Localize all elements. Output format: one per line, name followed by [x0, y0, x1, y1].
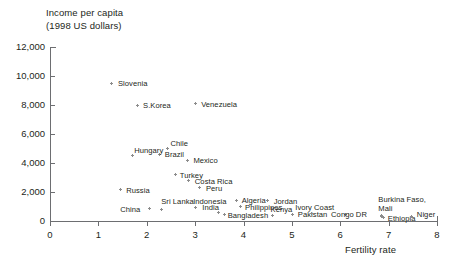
x-tick-label: 1: [88, 229, 108, 240]
data-point-marker: [174, 173, 177, 176]
x-tick-label: 5: [282, 229, 302, 240]
data-point-marker: [160, 208, 163, 211]
data-point-marker: [186, 159, 189, 162]
data-point-label: India: [202, 203, 219, 212]
y-axis-title-line1: Income per capita: [46, 7, 123, 18]
y-tick-mark: [51, 192, 55, 193]
data-point-marker: [148, 207, 151, 210]
data-point-marker: [235, 199, 238, 202]
x-tick-mark: [147, 222, 148, 226]
data-point-label: Niger: [417, 210, 435, 219]
y-tick-mark: [51, 47, 55, 48]
data-point-label: Venezuela: [201, 100, 237, 109]
scatter-chart: Income per capita (1998 US dollars) Fert…: [0, 0, 463, 270]
x-tick-label: 0: [40, 229, 60, 240]
x-tick-label: 3: [185, 229, 205, 240]
data-point-marker: [194, 206, 197, 209]
y-tick-label: 8,000: [1, 99, 45, 110]
data-point-marker: [266, 199, 269, 202]
x-tick-label: 6: [330, 229, 350, 240]
data-point-label: Peru: [206, 184, 222, 193]
data-point-label: China: [120, 205, 140, 214]
data-point-marker: [187, 179, 190, 182]
data-point-label: Mexico: [193, 156, 217, 165]
y-tick-label: 4,000: [1, 157, 45, 168]
x-tick-label: 4: [234, 229, 254, 240]
y-tick-label: 2,000: [1, 186, 45, 197]
data-point-label: Slovenia: [118, 79, 148, 88]
data-point-label: Chile: [171, 139, 189, 148]
y-tick-mark: [51, 105, 55, 106]
data-point-marker: [310, 212, 313, 215]
y-tick-label: 10,000: [1, 70, 45, 81]
data-point-label: Bangladesh: [228, 211, 269, 220]
data-point-label: Jordan: [274, 197, 298, 206]
x-tick-mark: [50, 222, 51, 226]
data-point-marker: [119, 188, 122, 191]
data-point-marker: [223, 213, 226, 216]
data-point-label: Ivory Coast: [295, 203, 334, 212]
data-point-label: Mali: [378, 204, 392, 213]
x-tick-mark: [340, 222, 341, 226]
data-point-label: Kenya: [271, 205, 293, 214]
data-point-marker: [410, 215, 413, 218]
data-point-marker: [198, 186, 201, 189]
y-tick-label: 6,000: [1, 128, 45, 139]
data-point-label: Sri Lanka: [161, 197, 194, 206]
x-tick-label: 7: [379, 229, 399, 240]
data-point-label: Brazil: [165, 150, 184, 159]
y-tick-mark: [51, 134, 55, 135]
y-tick-mark: [51, 163, 55, 164]
x-tick-mark: [292, 222, 293, 226]
data-point-marker: [110, 82, 113, 85]
x-tick-mark: [98, 222, 99, 226]
data-point-marker: [194, 102, 197, 105]
x-tick-mark: [195, 222, 196, 226]
data-point-marker: [382, 216, 385, 219]
x-tick-label: 8: [427, 229, 447, 240]
data-point-marker: [239, 205, 242, 208]
y-axis-title-line2: (1998 US dollars): [46, 20, 122, 31]
x-tick-label: 2: [137, 229, 157, 240]
data-point-label: Congo DR: [331, 210, 367, 219]
y-tick-label: 0: [1, 215, 45, 226]
x-tick-mark: [437, 222, 438, 226]
y-tick-mark: [51, 76, 55, 77]
data-point-marker: [136, 104, 139, 107]
data-point-label: Hungary: [134, 146, 163, 155]
y-tick-label: 12,000: [1, 41, 45, 52]
x-tick-mark: [244, 222, 245, 226]
data-point-label: Burkina Faso,: [378, 195, 426, 204]
data-point-label: Russia: [126, 186, 150, 195]
x-axis-title: Fertility rate: [345, 244, 396, 255]
data-point-marker: [291, 213, 294, 216]
data-point-label: S.Korea: [143, 101, 171, 110]
